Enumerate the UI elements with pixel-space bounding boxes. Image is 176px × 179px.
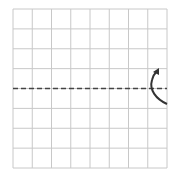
fold-grid-diagram (0, 0, 176, 179)
curved-arrow-icon (151, 68, 167, 104)
